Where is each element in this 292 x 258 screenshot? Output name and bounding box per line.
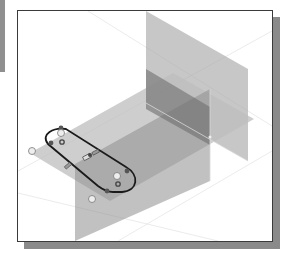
center-point-icon xyxy=(88,153,92,157)
tangent-icon xyxy=(49,141,54,146)
origin-point xyxy=(209,136,212,139)
tangent-icon xyxy=(105,189,110,194)
side-panel-edge xyxy=(0,0,5,72)
graphics-viewport[interactable] xyxy=(17,10,273,242)
model-scene xyxy=(18,11,272,241)
tangent-icon xyxy=(125,169,130,174)
coincident-icon xyxy=(58,130,65,137)
coincident-icon xyxy=(114,173,121,180)
coincident-icon xyxy=(29,148,36,155)
coincident-icon xyxy=(89,196,96,203)
